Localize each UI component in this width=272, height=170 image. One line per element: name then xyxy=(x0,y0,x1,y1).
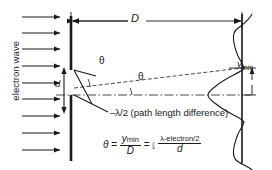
distance-D-dimension xyxy=(71,12,242,30)
path-difference-label: –λ/2 (path length difference) xyxy=(110,108,228,118)
D-arrowhead-right xyxy=(234,18,241,24)
path-difference-construction xyxy=(74,70,108,112)
d-arrowhead-down xyxy=(61,107,66,114)
theta-arc-at-axis xyxy=(130,88,132,95)
d-arrowhead-up xyxy=(61,67,66,74)
lambda-leader-line xyxy=(92,104,108,112)
formula-fraction-denominator: D xyxy=(120,146,141,157)
diffraction-angle-formula: θ = ymin D = ⟦ λ-electron/2 d xyxy=(103,134,201,156)
theta-label-at-axis: θ xyxy=(138,72,144,82)
ymin-subscript: min xyxy=(242,64,253,71)
formula-equals-2: = xyxy=(144,139,150,150)
formula-theta: θ xyxy=(103,139,108,150)
diffraction-intensity-curve xyxy=(208,14,252,170)
formula-bracket: ⟦ xyxy=(152,142,155,149)
formula-fraction-numerator: ymin xyxy=(120,134,141,146)
theta-arcs xyxy=(88,79,132,95)
theta-arc-at-slit xyxy=(88,79,90,87)
D-arrowhead-left xyxy=(72,18,79,24)
formula-ymin-sub: min xyxy=(127,135,139,144)
formula-fraction-lambda-over-d: λ-electron/2 d xyxy=(158,135,201,154)
formula-lambda-denominator: d xyxy=(158,144,201,155)
distance-D-label: D xyxy=(131,13,139,24)
electron-wave-label: electron wave xyxy=(11,33,21,109)
ymin-label: ymin xyxy=(237,59,253,71)
slit-width-label: d xyxy=(55,79,60,89)
formula-equals-1: = xyxy=(111,139,117,150)
diagram-canvas: electron wave D d θ θ ymin –λ/2 (path le… xyxy=(0,0,272,170)
theta-label-at-slit: θ xyxy=(99,56,105,66)
formula-fraction-ymin-over-D: ymin D xyxy=(120,134,141,156)
